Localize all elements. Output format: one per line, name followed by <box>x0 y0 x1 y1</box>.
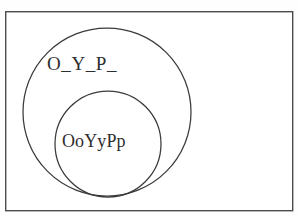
outer-set-label: O_Y_P_ <box>47 54 117 73</box>
diagram-canvas: O_Y_P_ OoYyPp <box>0 0 300 218</box>
diagram-svg <box>0 0 300 218</box>
inner-set-label: OoYyPp <box>62 132 126 150</box>
